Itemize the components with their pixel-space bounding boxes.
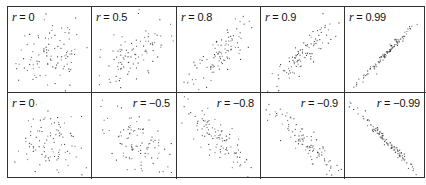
correlation-label: r = 0.9 — [265, 10, 296, 25]
correlation-label: r = −0.8 — [217, 96, 254, 111]
scatter-panel: r = −0.9 — [261, 93, 345, 179]
correlation-label: r = 0.99 — [349, 10, 386, 25]
scatter-panel: r = 0.9 — [261, 7, 345, 93]
scatter-panel: r = −0.5 — [92, 93, 177, 179]
scatter-panel: r = 0.5 — [92, 7, 177, 93]
correlation-label: r = 0.8 — [181, 10, 212, 25]
correlation-label: r = 0.5 — [96, 10, 127, 25]
correlation-label: r = −0.99 — [377, 96, 420, 111]
correlation-label: r = 0 — [12, 10, 34, 25]
correlation-label: r = −0.9 — [301, 96, 338, 111]
correlation-label: r = 0 — [12, 96, 34, 111]
correlation-label: r = −0.5 — [133, 96, 170, 111]
scatter-panel: r = 0 — [8, 7, 92, 93]
scatter-panel: r = 0.8 — [177, 7, 261, 93]
scatter-panel: r = 0 — [8, 93, 92, 179]
scatter-panel: r = −0.99 — [345, 93, 426, 179]
scatter-panel: r = −0.8 — [177, 93, 261, 179]
correlation-scatter-grid: r = 0r = 0.5r = 0.8r = 0.9r = 0.99r = 0r… — [7, 6, 425, 178]
scatter-panel: r = 0.99 — [345, 7, 426, 93]
